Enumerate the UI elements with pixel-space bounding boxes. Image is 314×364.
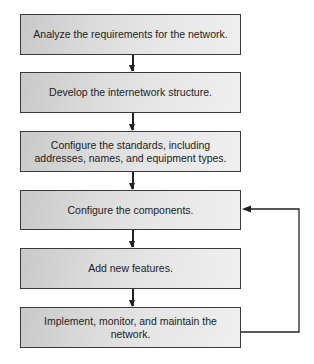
feedback-loop-arrow-icon [0,0,314,364]
